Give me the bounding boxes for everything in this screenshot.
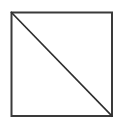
square-with-diagonal-figure [0, 0, 122, 128]
figure-canvas [0, 0, 122, 128]
